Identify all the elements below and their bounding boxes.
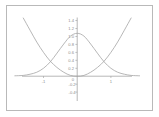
y-tick-label: -0.4	[69, 90, 77, 95]
y-tick-labels: 1.4 1.2 1.0 0.8 0.6 0.4 0.2 0 -0.2 -0.4	[68, 18, 76, 95]
axes-group	[22, 18, 132, 102]
y-tick-label: 1.4	[68, 18, 74, 23]
y-tick-label: 0.8	[68, 42, 74, 47]
y-tick-label: 0.6	[68, 50, 74, 55]
x-tick-label: -1	[42, 79, 46, 84]
y-tick-label: 0.2	[68, 66, 74, 71]
x-tick-label: 1	[110, 79, 113, 84]
chart-canvas: 1.4 1.2 1.0 0.8 0.6 0.4 0.2 0 -0.2 -0.4 …	[0, 0, 159, 117]
y-tick-label: 1.2	[68, 26, 74, 31]
figure-root: 1.4 1.2 1.0 0.8 0.6 0.4 0.2 0 -0.2 -0.4 …	[0, 0, 159, 117]
y-tick-label: 0.4	[68, 58, 74, 63]
y-tick-label: -0.2	[69, 82, 77, 87]
